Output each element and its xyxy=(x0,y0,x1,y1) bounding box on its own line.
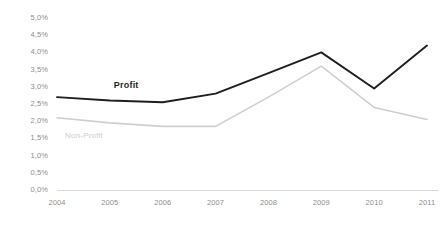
x-axis-tick-label: 2011 xyxy=(410,199,444,207)
y-axis-tick-label: 3,5% xyxy=(31,66,49,74)
x-axis-tick-label: 2009 xyxy=(304,199,338,207)
x-axis-tick-label: 2004 xyxy=(40,199,74,207)
data-series-group xyxy=(57,46,427,127)
y-axis-tick-label: 5,0% xyxy=(31,14,49,22)
series-line-non-profit xyxy=(57,66,427,126)
x-axis-tick-label: 2005 xyxy=(93,199,127,207)
x-axis-tick-label: 2008 xyxy=(251,199,285,207)
series-label-non-profit: Non-Profit xyxy=(65,132,103,140)
series-line-profit xyxy=(57,46,427,103)
y-axis-tick-label: 2,0% xyxy=(31,117,49,125)
x-axis-tick-label: 2006 xyxy=(146,199,180,207)
series-label-profit: Profit xyxy=(114,81,139,90)
y-axis-tick-label: 0,5% xyxy=(31,169,49,177)
y-axis-tick-label: 1,0% xyxy=(31,152,49,160)
y-axis-tick-label: 4,5% xyxy=(31,31,49,39)
y-axis-tick-label: 0,0% xyxy=(31,186,49,194)
line-chart-plot xyxy=(0,0,444,226)
x-axis-tick-label: 2010 xyxy=(357,199,391,207)
x-axis-tick-label: 2007 xyxy=(199,199,233,207)
y-axis-tick-label: 3,0% xyxy=(31,83,49,91)
y-axis-tick-label: 1,5% xyxy=(31,134,49,142)
chart-figure: 0,0%0,5%1,0%1,5%2,0%2,5%3,0%3,5%4,0%4,5%… xyxy=(0,0,444,226)
y-axis-tick-label: 4,0% xyxy=(31,48,49,56)
y-axis-tick-label: 2,5% xyxy=(31,100,49,108)
